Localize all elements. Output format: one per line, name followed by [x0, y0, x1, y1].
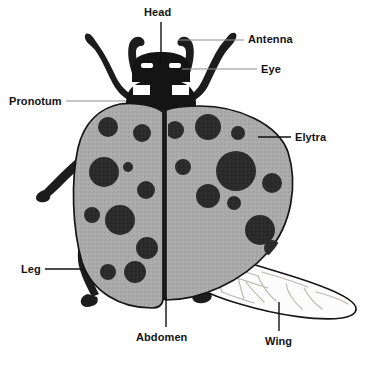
label-abdomen: Abdomen	[136, 331, 187, 343]
leg-front-right	[188, 33, 236, 102]
label-leg: Leg	[21, 263, 41, 275]
eye-right	[169, 63, 181, 68]
label-head: Head	[144, 6, 171, 18]
label-pronotum: Pronotum	[9, 95, 62, 107]
label-antenna: Antenna	[248, 33, 293, 45]
leg-hind-left-foot	[81, 294, 98, 307]
label-wing: Wing	[265, 335, 292, 347]
pronotum-patch-right	[172, 85, 189, 95]
leg-front-left	[85, 34, 134, 101]
pronotum-patch-left	[133, 85, 150, 95]
eye-left	[141, 63, 153, 68]
label-eye: Eye	[261, 63, 281, 75]
label-elytra: Elytra	[295, 131, 326, 143]
anatomy-diagram: Head Antenna Eye Pronotum Elytra Leg Abd…	[0, 0, 370, 366]
ladybug-illustration	[0, 0, 370, 366]
